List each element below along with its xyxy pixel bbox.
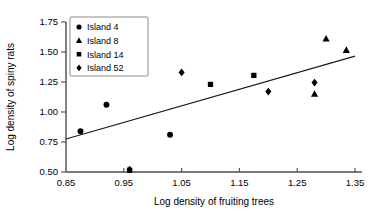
x-axis-tick-labels: 0.850.951.051.151.251.35 xyxy=(57,177,365,188)
data-point-diamond xyxy=(265,88,271,96)
legend-label: Island 8 xyxy=(87,36,119,46)
y-tick-label: 1.75 xyxy=(40,16,59,27)
y-tick-label: 0.75 xyxy=(40,136,59,147)
data-point-diamond xyxy=(179,69,185,77)
data-point-triangle xyxy=(323,35,330,42)
y-tick-label: 1.50 xyxy=(40,46,59,57)
x-tick-label: 1.15 xyxy=(230,177,249,188)
legend-label: Island 52 xyxy=(87,63,124,73)
x-tick-label: 0.85 xyxy=(57,177,76,188)
legend-marker-square xyxy=(77,52,82,57)
legend-marker-circle xyxy=(76,24,81,29)
data-point-triangle xyxy=(311,90,318,97)
y-tick-label: 1.25 xyxy=(40,76,59,87)
data-point-circle xyxy=(167,132,173,138)
data-point-diamond xyxy=(312,79,318,87)
chart-legend: Island 4Island 8Island 14Island 52 xyxy=(70,17,148,76)
legend-label: Island 4 xyxy=(87,22,119,32)
y-axis-tick-labels: 0.500.751.001.251.501.75 xyxy=(40,16,59,177)
chart-canvas: 0.500.751.001.251.501.75 0.850.951.051.1… xyxy=(0,0,377,212)
data-point-triangle xyxy=(343,46,350,53)
y-axis-title: Log density of spiny rats xyxy=(5,43,16,151)
x-tick-label: 1.35 xyxy=(346,177,365,188)
x-tick-label: 1.25 xyxy=(288,177,307,188)
x-axis-title: Log density of fruiting trees xyxy=(154,196,274,207)
y-tick-label: 1.00 xyxy=(40,106,59,117)
scatter-plot-figure: 0.500.751.001.251.501.75 0.850.951.051.1… xyxy=(0,0,377,212)
data-point-circle xyxy=(78,128,84,134)
legend-label: Island 14 xyxy=(87,50,124,60)
data-point-square xyxy=(251,73,256,78)
y-tick-label: 0.50 xyxy=(40,166,59,177)
x-tick-label: 1.05 xyxy=(172,177,191,188)
x-tick-label: 0.95 xyxy=(115,177,134,188)
data-point-square xyxy=(208,82,213,87)
data-point-circle xyxy=(104,102,110,108)
